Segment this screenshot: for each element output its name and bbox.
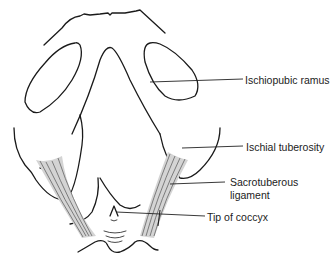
leader-ischial-tuberosity bbox=[182, 146, 243, 148]
anatomy-drawing bbox=[0, 0, 335, 271]
subpubic-arch bbox=[72, 48, 160, 135]
label-tip-of-coccyx: Tip of coccyx bbox=[207, 211, 268, 223]
anal-arc-3 bbox=[108, 241, 122, 243]
label-sacrotuberous-ligament-line2: ligament bbox=[230, 189, 270, 201]
anal-arc-2 bbox=[106, 236, 124, 238]
coccyx-right-curve bbox=[100, 178, 140, 209]
leader-sacrotuberous-ligament bbox=[170, 182, 225, 184]
right-obturator-foramen bbox=[144, 43, 198, 100]
right-sacrotuberous-ligament bbox=[140, 152, 188, 238]
left-obturator-foramen bbox=[25, 43, 81, 113]
label-ischial-tuberosity: Ischial tuberosity bbox=[246, 141, 324, 153]
pelvic-outlet-diagram: Ischiopubic ramus Ischial tuberosity Sac… bbox=[0, 0, 335, 271]
pubic-arch-top bbox=[44, 10, 165, 45]
left-ischium-outline bbox=[14, 115, 83, 200]
coccyx-tip bbox=[110, 206, 118, 216]
coccyx-arc bbox=[111, 220, 117, 221]
label-sacrotuberous-ligament-line1: Sacrotuberous bbox=[230, 176, 298, 188]
label-ischiopubic-ramus: Ischiopubic ramus bbox=[245, 74, 330, 86]
left-sacrotuberous-ligament bbox=[36, 156, 96, 238]
anal-arc-1 bbox=[104, 231, 126, 233]
